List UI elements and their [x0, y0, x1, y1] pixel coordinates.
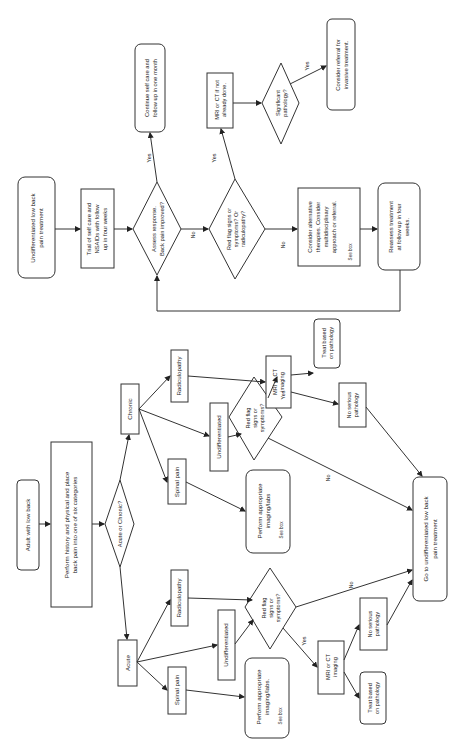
edge-label-significant-yes: Yes: [304, 61, 310, 70]
label-chronic-spinal: Spinal pain: [173, 466, 180, 497]
label-acute-mri: MRI or CTimaging: [325, 654, 338, 680]
label-acute: Acute: [124, 655, 131, 671]
node-acute-mri: [318, 641, 344, 694]
label-acute-undiff: Undifferentiated: [222, 623, 229, 667]
edge-label-acute-yes: Yes: [301, 636, 307, 645]
flowchart-canvas: Adult with low back Perform history and …: [0, 0, 454, 752]
label-acute-imaging-note: See box: [278, 707, 283, 725]
label-acute-chronic: Acute or Chronic?: [117, 500, 123, 547]
node-mri-not-done: [207, 73, 233, 128]
edge-label-redflag-yes: Yes: [211, 153, 217, 162]
edge-label-redflag-no: No: [280, 241, 286, 248]
node-continue-selfcare: [135, 44, 165, 132]
label-mri-not-done: MRI or CT if notalready done.: [214, 80, 227, 120]
label-chronic-treat: Treat basedon pathology: [321, 327, 334, 359]
node-acute-treat: [360, 672, 386, 724]
edge-label-acute-no: No: [348, 581, 354, 588]
label-chronic-undiff: Undifferentiated: [215, 415, 222, 459]
label-adult: Adult with low back: [24, 498, 31, 552]
label-acute-noserious: No seriouspathology: [367, 610, 380, 637]
label-history: Perform history and physical and placeba…: [63, 471, 78, 578]
label-significant-pathology: Significantpathology?: [275, 89, 288, 116]
node-assess-response: [133, 182, 181, 275]
edge-label-assess-no: No: [190, 231, 196, 238]
edge-label-chronic-no: No: [325, 474, 331, 481]
label-chronic: Chronic: [126, 398, 133, 419]
edge-label-chronic-yes: Yes: [280, 390, 286, 399]
label-consider-alternative-note: See box: [348, 243, 353, 261]
label-chronic-noserious: No seriouspathology: [346, 391, 359, 418]
label-chronic-imaging-note: See box: [279, 521, 284, 539]
label-trial-selfcare: Trial of self care andNSAIDs with follow…: [86, 203, 108, 255]
label-acute-treat: Treat basedon pathology: [367, 682, 380, 714]
label-chronic-radic: Radiculopathy: [175, 355, 182, 395]
label-redflag-radic: Red flag signs orsymptoms? Orradiculopat…: [226, 208, 246, 250]
label-acute-radic: Radiculopathy: [175, 577, 182, 617]
node-goto-undiff: [413, 477, 447, 601]
node-chronic-treat: [314, 319, 340, 368]
label-acute-spinal: Spinal pain: [173, 674, 180, 705]
edge-label-assess-yes: Yes: [146, 153, 152, 162]
node-consider-referral: [327, 19, 355, 110]
